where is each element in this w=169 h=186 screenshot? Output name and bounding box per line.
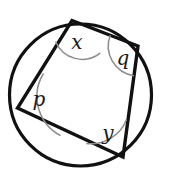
geometry-canvas: x q p y (0, 0, 169, 186)
angle-label-q: q (117, 46, 130, 70)
angle-label-p: p (33, 87, 46, 111)
geometry-figure: x q p y (0, 0, 169, 186)
angle-label-y: y (101, 121, 114, 145)
angle-label-x: x (71, 30, 82, 54)
